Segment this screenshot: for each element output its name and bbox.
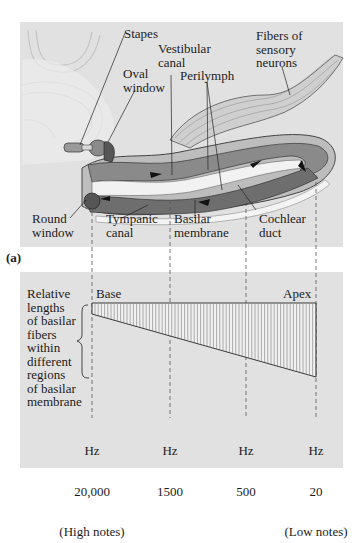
freq-value: 20 — [276, 485, 356, 499]
freq-tick-1500: Hz 1500 — [140, 417, 200, 512]
freq-value: 1500 — [140, 485, 200, 499]
freq-unit: Hz — [52, 444, 132, 458]
label-tympanic-canal: Tympanic canal — [106, 212, 158, 239]
label-basilar-membrane: Basilar membrane — [174, 212, 229, 239]
y-axis-description: Relative lengths of basilar fibers withi… — [27, 287, 82, 409]
oval-window-shape — [104, 142, 114, 162]
label-apex: Apex — [283, 287, 311, 301]
label-stapes: Stapes — [124, 27, 158, 41]
label-oval-window: Oval window — [123, 67, 165, 94]
label-vestibular-canal: Vestibular canal — [158, 42, 211, 69]
freq-value: 500 — [216, 485, 276, 499]
freq-unit: Hz — [216, 444, 276, 458]
freq-tick-20000: Hz 20,000 (High notes) — [52, 417, 132, 543]
freq-note: (Low notes) — [276, 525, 356, 539]
freq-tick-20: Hz 20 (Low notes) — [276, 417, 356, 543]
freq-unit: Hz — [276, 444, 356, 458]
freq-tick-500: Hz 500 — [216, 417, 276, 512]
label-fibers-of-sensory-neurons: Fibers of sensory neurons — [256, 29, 303, 70]
label-perilymph: Perilymph — [180, 69, 234, 83]
panel-label: (a) — [6, 250, 21, 266]
freq-value: 20,000 — [52, 485, 132, 499]
label-base: Base — [96, 287, 121, 301]
label-round-window: Round window — [32, 212, 74, 239]
freq-unit: Hz — [140, 444, 200, 458]
label-cochlear-duct: Cochlear duct — [259, 212, 306, 239]
freq-note: (High notes) — [52, 525, 132, 539]
basilar-fiber-length-wedge — [92, 303, 316, 377]
